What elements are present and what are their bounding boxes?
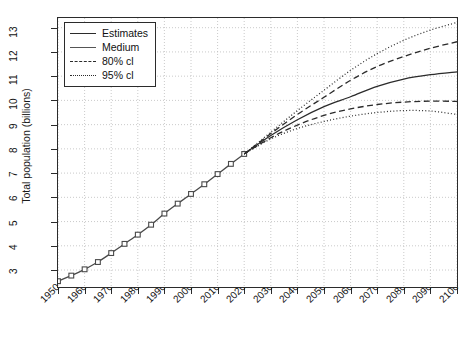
legend-key-solid-icon [70, 42, 96, 52]
data-point-marker [69, 273, 74, 278]
data-point-marker [175, 201, 180, 206]
chart-legend: EstimatesMedium80% cl95% cl [64, 22, 156, 87]
data-point-marker [215, 172, 220, 177]
legend-item: Medium [70, 40, 148, 54]
data-point-marker [202, 182, 207, 187]
legend-item: 80% cl [70, 54, 148, 68]
data-point-marker [149, 222, 154, 227]
y-axis-tick-label: 13 [8, 26, 19, 60]
series-line-80-cl-lower [244, 101, 457, 154]
legend-label: 95% cl [102, 69, 134, 81]
data-point-marker [58, 279, 60, 284]
legend-key-dashed-icon [70, 56, 96, 66]
data-point-marker [109, 251, 114, 256]
data-point-marker [122, 241, 127, 246]
data-point-marker [82, 267, 87, 272]
population-projection-chart: Total population (billions) 345678910111… [0, 0, 475, 338]
legend-item: Estimates [70, 26, 148, 40]
legend-label: 80% cl [102, 55, 134, 67]
data-point-marker [96, 260, 101, 265]
data-point-marker [135, 232, 140, 237]
data-point-marker [229, 161, 234, 166]
legend-item: 95% cl [70, 68, 148, 82]
legend-key-dotted-icon [70, 70, 96, 80]
y-axis-title: Total population (billions) [20, 46, 32, 246]
data-point-marker [162, 211, 167, 216]
legend-label: Medium [102, 41, 139, 53]
legend-label: Estimates [102, 27, 148, 39]
legend-key-solid-icon [70, 28, 96, 38]
data-point-marker [189, 192, 194, 197]
